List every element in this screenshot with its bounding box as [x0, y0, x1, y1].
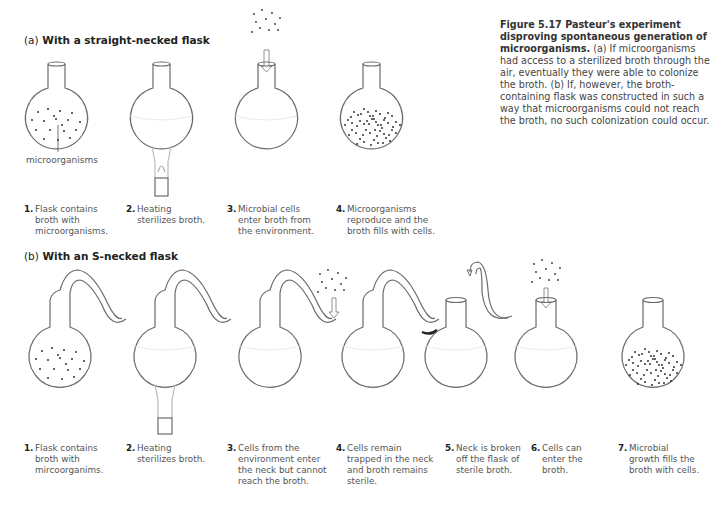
caption-body: (a) If microorganisms had access to a st… — [500, 43, 710, 126]
panel-b-title: (b) With an S-necked flask — [24, 250, 178, 262]
microorganisms-label: microorganisms — [26, 155, 98, 165]
panel-a-letter: (a) — [24, 34, 39, 46]
panel-b-step-5: 5. Neck is broken off the flask of steri… — [445, 443, 535, 476]
panel-a-heading: With a straight-necked flask — [42, 34, 210, 46]
figure-caption: Figure 5.17 Pasteur's experiment disprov… — [500, 19, 710, 127]
panel-b-step-2: 2. Heating sterilizes broth. — [126, 443, 226, 465]
panel-a-title: (a) With a straight-necked flask — [24, 34, 210, 46]
panel-a-step-2: 2. Heating sterilizes broth. — [126, 204, 226, 226]
panel-b-heading: With an S-necked flask — [43, 250, 178, 262]
panel-b-letter: (b) — [24, 250, 39, 262]
panel-b-step-1: 1. Flask contains broth with mircoorgani… — [24, 443, 124, 476]
panel-b-step-6: 6. Cells can enter the broth. — [531, 443, 611, 476]
panel-a-step-1: 1. Flask contains broth with microorgani… — [24, 204, 124, 237]
panel-b-step-4: 4. Cells remain trapped in the neck and … — [336, 443, 441, 487]
panel-a-step-3: 3. Microbial cells enter broth from the … — [227, 204, 327, 237]
panel-a-step-4: 4. Microorganisms reproduce and the brot… — [336, 204, 456, 237]
panel-b-step-3: 3. Cells from the environment enter the … — [227, 443, 337, 487]
panel-b-step-7: 7. Microbial growth fills the broth with… — [618, 443, 713, 476]
